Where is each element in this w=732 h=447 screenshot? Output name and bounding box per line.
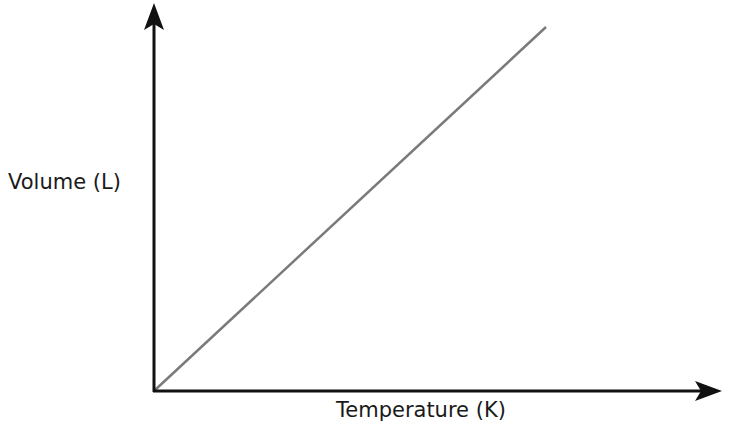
y-axis-label: Volume (L) (8, 170, 121, 194)
x-axis-label: Temperature (K) (336, 398, 506, 422)
chart-canvas (0, 0, 732, 447)
data-line (155, 27, 546, 390)
